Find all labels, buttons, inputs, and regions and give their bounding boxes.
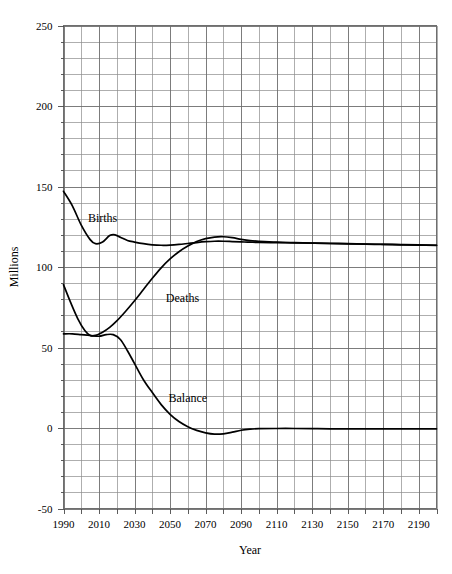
x-axis-tick-label: 1990	[53, 518, 76, 530]
x-axis-tick-label: 2170	[372, 518, 395, 530]
series-annotation-label: Deaths	[166, 291, 200, 305]
series-annotation-label: Balance	[169, 391, 208, 405]
grid-major-lines	[64, 26, 437, 510]
x-axis-tick-labels: 1990201020302050207020902110213021502170…	[53, 518, 431, 530]
population-line-chart: 1990201020302050207020902110213021502170…	[0, 0, 452, 574]
x-axis-tick-label: 2110	[266, 518, 288, 530]
x-axis-tick-label: 2030	[124, 518, 147, 530]
y-axis-tick-label: 0	[47, 422, 53, 434]
y-axis-tick-label: 100	[36, 261, 53, 273]
x-axis-tick-label: 2090	[230, 518, 253, 530]
plot-area-border	[64, 26, 437, 509]
series-line-births	[64, 191, 437, 245]
y-axis-tick-label: 150	[36, 181, 53, 193]
x-axis-tick-label: 2010	[88, 518, 111, 530]
y-axis-tick-label: 200	[36, 100, 53, 112]
y-axis-tick-label: -50	[38, 503, 53, 515]
y-axis-tick-labels: 250200150100500-50	[36, 20, 53, 515]
series-annotation-label: Births	[88, 211, 118, 225]
x-axis-tick-label: 2130	[301, 518, 324, 530]
x-axis-tick-label: 2150	[337, 518, 360, 530]
x-axis-tick-label: 2070	[195, 518, 218, 530]
x-axis-tick-label: 2050	[159, 518, 182, 530]
y-axis-tick-label: 50	[42, 342, 54, 354]
y-axis-tick-label: 250	[36, 20, 53, 32]
y-axis-title: Millions	[7, 246, 21, 287]
grid-minor-lines	[64, 26, 438, 509]
y-axis-tick-marks	[58, 27, 64, 510]
x-axis-title: Year	[239, 543, 261, 557]
chart-container: 1990201020302050207020902110213021502170…	[0, 0, 452, 574]
x-axis-tick-label: 2190	[408, 518, 431, 530]
data-series-group	[64, 191, 437, 434]
